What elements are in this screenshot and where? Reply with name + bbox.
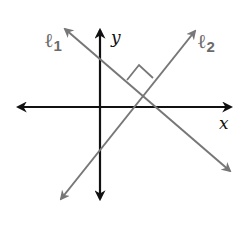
l1-subscript: 1 (54, 37, 62, 54)
l1-symbol: ℓ (44, 28, 54, 52)
label-l2: ℓ2 (197, 31, 215, 54)
l2-subscript: 2 (207, 38, 215, 55)
l2-symbol: ℓ (197, 29, 207, 53)
right-angle-marker (127, 65, 153, 80)
label-y-axis: y (111, 29, 121, 46)
label-x-axis: x (219, 115, 229, 132)
line-l2 (61, 31, 195, 199)
label-l1: ℓ1 (44, 30, 62, 53)
